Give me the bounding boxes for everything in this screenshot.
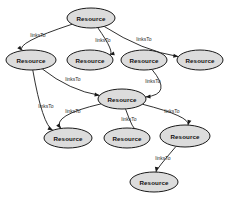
node-label: Resource (170, 133, 199, 140)
edge-arrowhead-icon (155, 167, 159, 172)
edge-arrowhead-icon (47, 126, 52, 130)
edge-label: linksTo (136, 36, 152, 42)
graph-node[interactable]: Resource (98, 89, 146, 109)
node-label: Resource (139, 179, 168, 186)
node-label: Resource (107, 96, 136, 103)
node-label: Resource (53, 135, 82, 142)
graph-node[interactable]: Resource (177, 50, 223, 70)
node-label: Resource (76, 15, 105, 22)
graph-node[interactable]: Resource (6, 50, 56, 70)
edge-label: linksTo (164, 108, 180, 114)
graph-edge (33, 70, 53, 130)
graph-node[interactable]: Resource (67, 50, 113, 70)
graph-node[interactable]: Resource (67, 8, 115, 28)
edge-label: linksTo (145, 78, 161, 84)
resource-graph-svg: ResourceResourceResourceResourceResource… (0, 0, 232, 205)
edge-label: linksTo (65, 76, 81, 82)
edge-arrowhead-icon (56, 123, 61, 128)
graph-node[interactable]: Resource (121, 50, 167, 70)
edge-label: linksTo (65, 108, 81, 114)
graph-node[interactable]: Resource (130, 172, 178, 192)
edge-arrowhead-icon (188, 120, 192, 125)
graph-node[interactable]: Resource (160, 125, 210, 147)
node-label: Resource (185, 57, 214, 64)
node-label: Resource (75, 57, 104, 64)
node-label: Resource (16, 57, 45, 64)
edge-label: linksTo (121, 116, 137, 122)
node-label: Resource (129, 57, 158, 64)
edge-label: linksTo (95, 37, 111, 43)
graph-edge (42, 69, 99, 95)
node-label: Resource (112, 135, 141, 142)
edge-label: linksTo (38, 103, 54, 109)
edge-label: linksTo (30, 32, 46, 38)
edge-label: linksTo (155, 155, 171, 161)
graph-edge (21, 24, 72, 50)
resource-graph-canvas: ResourceResourceResourceResourceResource… (0, 0, 232, 205)
graph-node[interactable]: Resource (104, 128, 150, 148)
graph-node[interactable]: Resource (44, 128, 92, 148)
